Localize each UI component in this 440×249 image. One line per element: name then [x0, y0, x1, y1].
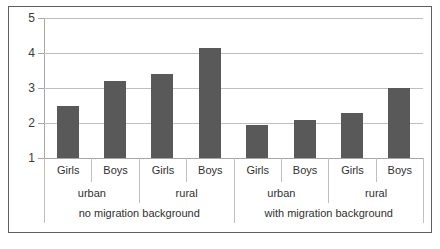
- axis-label-gender-1: Girls: [44, 158, 92, 182]
- bar-1: [57, 106, 79, 159]
- axis-label-gender-7: Girls: [328, 158, 376, 182]
- axis-label-gender-4: Boys: [186, 158, 234, 182]
- bar-4: [199, 48, 221, 158]
- figure-frame: 54321 GirlsBoysGirlsBoysGirlsBoysGirlsBo…: [8, 6, 432, 233]
- gridline-5: [44, 18, 423, 19]
- bar-6: [294, 120, 316, 159]
- axis-row-gender: GirlsBoysGirlsBoysGirlsBoysGirlsBoys: [44, 158, 423, 182]
- y-axis-label-3: 3: [28, 82, 35, 94]
- gridline-3: [44, 88, 423, 89]
- axis-row-locality: urbanruralurbanrural: [44, 182, 423, 203]
- y-tick-4: [38, 53, 44, 54]
- plot-area: 54321: [44, 18, 423, 158]
- axis-label-locality-4: rural: [328, 182, 424, 203]
- axis-label-gender-5: Girls: [234, 158, 282, 182]
- axis-label-migration-2: with migration background: [234, 203, 425, 223]
- axis-label-gender-3: Girls: [139, 158, 187, 182]
- gridline-4: [44, 53, 423, 54]
- y-axis-label-5: 5: [28, 12, 35, 24]
- axis-label-locality-1: urban: [44, 182, 140, 203]
- chart-screenshot: 54321 GirlsBoysGirlsBoysGirlsBoysGirlsBo…: [0, 0, 440, 249]
- category-axis-table: GirlsBoysGirlsBoysGirlsBoysGirlsBoys urb…: [44, 158, 423, 223]
- axis-row-migration: no migration backgroundwith migration ba…: [44, 203, 423, 223]
- axis-label-locality-3: urban: [234, 182, 330, 203]
- bar-5: [246, 125, 268, 158]
- y-tick-5: [38, 18, 44, 19]
- axis-label-gender-8: Boys: [376, 158, 424, 182]
- gridline-2: [44, 123, 423, 124]
- y-axis-label-2: 2: [28, 117, 35, 129]
- axis-label-gender-6: Boys: [281, 158, 329, 182]
- bar-8: [388, 88, 410, 158]
- y-axis-label-1: 1: [28, 152, 35, 164]
- bar-3: [151, 74, 173, 158]
- y-axis-label-4: 4: [28, 47, 35, 59]
- bar-2: [104, 81, 126, 158]
- axis-label-migration-1: no migration background: [44, 203, 235, 223]
- bar-7: [341, 113, 363, 159]
- plot-inner: 54321: [44, 18, 423, 158]
- axis-label-gender-2: Boys: [91, 158, 139, 182]
- axis-label-locality-2: rural: [139, 182, 235, 203]
- y-tick-2: [38, 123, 44, 124]
- y-tick-3: [38, 88, 44, 89]
